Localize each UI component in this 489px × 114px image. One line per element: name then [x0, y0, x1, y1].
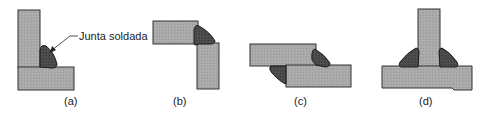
plate-top	[250, 44, 316, 66]
plate-horizontal	[18, 67, 74, 90]
panel-c: (c)	[250, 44, 351, 107]
weld-joints-diagram: Junta soldada (a) (b) (c) (d)	[0, 0, 489, 114]
panel-a: Junta soldada (a)	[18, 10, 148, 107]
panel-b: (b)	[153, 21, 219, 107]
plate-vertical	[418, 9, 440, 67]
arrow-icon	[50, 46, 56, 53]
panel-label-d: (d)	[419, 95, 432, 107]
weld-bead	[194, 26, 215, 46]
plate-vertical	[18, 10, 40, 68]
weld-bead-left	[399, 48, 419, 67]
panel-label-b: (b)	[173, 95, 186, 107]
leader-line	[52, 36, 78, 50]
plate-vertical	[197, 43, 219, 89]
plate-bottom	[286, 65, 351, 87]
panel-d: (d)	[382, 9, 472, 107]
panel-label-a: (a)	[64, 95, 77, 107]
annotation-label: Junta soldada	[79, 30, 148, 42]
plate-horizontal	[153, 21, 198, 44]
plate-horizontal	[382, 66, 472, 90]
weld-bead-left	[270, 66, 286, 84]
panel-label-c: (c)	[294, 95, 307, 107]
weld-bead-right	[439, 48, 458, 67]
